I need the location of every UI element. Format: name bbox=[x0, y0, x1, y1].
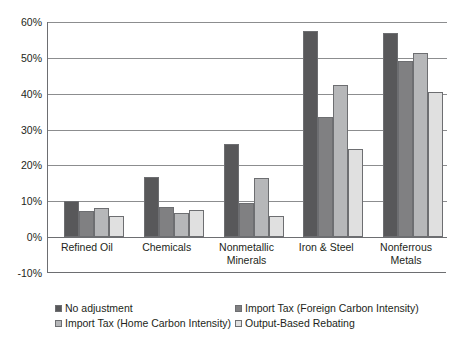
bar bbox=[224, 144, 239, 237]
legend-swatch-icon bbox=[235, 320, 242, 327]
y-axis-tick-label: 0% bbox=[0, 232, 42, 242]
legend-swatch-icon bbox=[235, 305, 242, 312]
x-axis-category-label: Chemicals bbox=[127, 241, 207, 254]
bar bbox=[174, 213, 189, 237]
bar-chart: 60%50%40%30%20%10%0%-10% Refined OilChem… bbox=[0, 0, 454, 346]
x-axis-category-label: Iron & Steel bbox=[286, 241, 366, 254]
legend-item: No adjustment bbox=[55, 302, 133, 315]
bar bbox=[333, 85, 348, 237]
bar bbox=[348, 149, 363, 237]
bar bbox=[159, 207, 174, 237]
chart-legend: No adjustmentImport Tax (Foreign Carbon … bbox=[47, 300, 446, 340]
y-axis-tick-label: 30% bbox=[0, 125, 42, 135]
x-axis-category-label: Nonmetallic Minerals bbox=[207, 241, 287, 266]
bar bbox=[413, 53, 428, 238]
bar bbox=[383, 33, 398, 237]
bar bbox=[239, 203, 254, 237]
x-axis-category-label: Refined Oil bbox=[47, 241, 127, 254]
bar bbox=[79, 211, 94, 237]
legend-swatch-icon bbox=[55, 305, 62, 312]
bar-groups bbox=[48, 22, 447, 273]
y-axis-tick-label: 10% bbox=[0, 196, 42, 206]
plot-area bbox=[47, 22, 446, 273]
legend-item: Output-Based Rebating bbox=[235, 317, 355, 330]
bar bbox=[269, 216, 284, 238]
bar bbox=[144, 177, 159, 237]
bar bbox=[303, 31, 318, 237]
bar bbox=[428, 92, 443, 237]
legend-label: Import Tax (Foreign Carbon Intensity) bbox=[245, 302, 419, 315]
legend-label: Import Tax (Home Carbon Intensity) bbox=[65, 317, 231, 330]
y-axis-tick-label: -10% bbox=[0, 268, 42, 278]
legend-swatch-icon bbox=[55, 320, 62, 327]
bar bbox=[318, 117, 333, 237]
y-axis-tick-label: 20% bbox=[0, 160, 42, 170]
legend-item: Import Tax (Home Carbon Intensity) bbox=[55, 317, 231, 330]
bar bbox=[398, 61, 413, 237]
bar bbox=[64, 201, 79, 237]
bar bbox=[189, 210, 204, 237]
x-axis-category-label: Nonferrous Metals bbox=[366, 241, 446, 266]
legend-label: No adjustment bbox=[65, 302, 133, 315]
axis-zero-line bbox=[48, 237, 447, 238]
y-axis-tick-label: 60% bbox=[0, 17, 42, 27]
y-axis-tick-label: 40% bbox=[0, 89, 42, 99]
bar bbox=[254, 178, 269, 237]
legend-item: Import Tax (Foreign Carbon Intensity) bbox=[235, 302, 419, 315]
bar bbox=[94, 208, 109, 237]
bar bbox=[109, 216, 124, 238]
y-axis-tick-label: 50% bbox=[0, 53, 42, 63]
legend-label: Output-Based Rebating bbox=[245, 317, 355, 330]
